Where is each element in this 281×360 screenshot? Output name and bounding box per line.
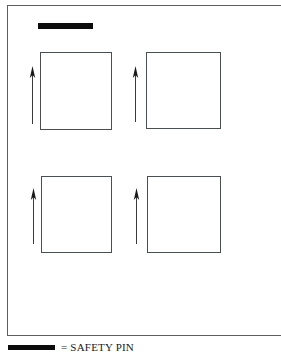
panel-top-left [40, 52, 112, 130]
panel-top-right [146, 52, 221, 129]
technical-figure: = SAFETY PIN [0, 0, 281, 360]
panel-bottom-left [41, 176, 112, 253]
up-arrow-bottom-right [131, 188, 142, 244]
up-arrow-top-right [130, 66, 141, 122]
legend-label: = SAFETY PIN [61, 342, 134, 353]
panel-bottom-right [147, 176, 221, 253]
up-arrow-top-left [27, 66, 38, 124]
up-arrow-bottom-left [28, 188, 39, 244]
legend: = SAFETY PIN [8, 342, 134, 353]
safety-pin-bar [38, 23, 93, 29]
legend-swatch-icon [8, 345, 55, 350]
